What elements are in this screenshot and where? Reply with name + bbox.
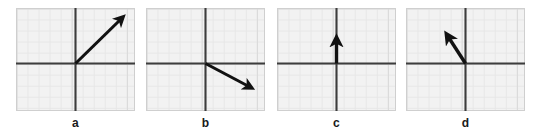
axes-and-vector-a — [16, 8, 135, 111]
panel-a — [16, 8, 135, 111]
panel-b — [146, 8, 265, 111]
panel-c — [277, 8, 396, 111]
vector-arrow-d — [449, 38, 466, 64]
panel-label-d: d — [406, 116, 525, 130]
vector-arrow-b — [206, 64, 249, 87]
panel-label-c: c — [277, 116, 396, 130]
axes-and-vector-d — [406, 8, 525, 111]
axes-and-vector-c — [277, 8, 396, 111]
panel-d — [406, 8, 525, 111]
axes-and-vector-b — [146, 8, 265, 111]
panel-label-a: a — [16, 116, 135, 130]
vector-diagram-figure: a b c d — [0, 0, 535, 138]
panel-label-b: b — [146, 116, 265, 130]
vector-arrow-a — [76, 20, 121, 64]
